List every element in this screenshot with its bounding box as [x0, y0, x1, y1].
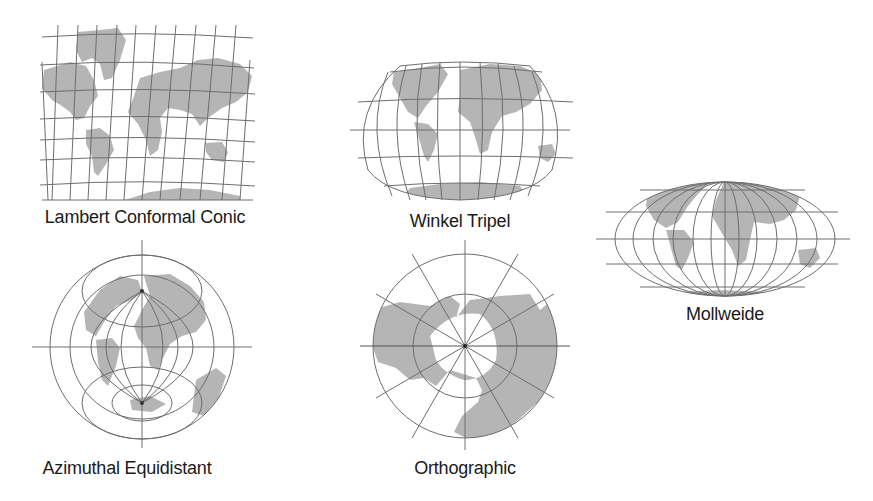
- projection-label: Winkel Tripel: [410, 211, 510, 232]
- pole-point: [463, 344, 467, 348]
- projection-label: Azimuthal Equidistant: [43, 458, 212, 479]
- lambert-map-graphic: [0, 0, 290, 240]
- mollweide-map: Mollweide: [590, 160, 873, 340]
- projection-label: Orthographic: [414, 458, 516, 479]
- projection-label: Lambert Conformal Conic: [45, 207, 245, 228]
- azimuthal-equidistant-map: Azimuthal Equidistant: [20, 240, 280, 500]
- projection-label: Mollweide: [686, 304, 764, 325]
- lambert-conformal-conic-map: Lambert Conformal Conic: [0, 0, 290, 240]
- orthographic-map: Orthographic: [340, 240, 590, 500]
- south-pole-point: [140, 401, 144, 405]
- winkel-tripel-map: Winkel Tripel: [330, 50, 590, 240]
- north-pole-point: [140, 289, 144, 293]
